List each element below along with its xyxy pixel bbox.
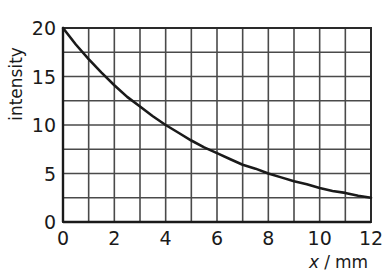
- intensity-vs-distance-chart: 024681012 05101520 x/mm intensity: [0, 0, 392, 277]
- x-axis-title-separator: /: [324, 252, 330, 272]
- x-tick-label: 8: [262, 227, 274, 249]
- x-axis-title-unit: mm: [335, 252, 368, 272]
- x-tick-label: 0: [57, 227, 69, 249]
- y-tick-label: 0: [44, 211, 56, 233]
- x-tick-label: 10: [308, 227, 332, 249]
- y-tick-label: 15: [32, 66, 56, 88]
- y-tick-label: 20: [32, 17, 56, 39]
- x-tick-label: 12: [359, 227, 383, 249]
- x-tick-label: 4: [160, 227, 172, 249]
- x-axis-title: x/mm: [308, 252, 368, 272]
- y-tick-label: 10: [32, 114, 56, 136]
- x-tick-label: 6: [211, 227, 223, 249]
- x-axis-title-variable: x: [308, 252, 320, 272]
- x-tick-label: 2: [108, 227, 120, 249]
- y-tick-label: 5: [44, 163, 56, 185]
- y-axis-title: intensity: [6, 47, 26, 121]
- chart-figure: 024681012 05101520 x/mm intensity: [0, 0, 392, 277]
